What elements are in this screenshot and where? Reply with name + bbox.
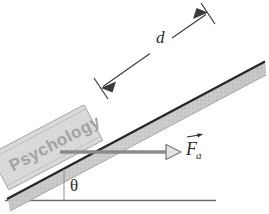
distance-dimension [94, 3, 215, 99]
distance-label: d [156, 28, 165, 48]
applied-force-label: F a [186, 140, 203, 158]
force-subscript-a: a [196, 149, 202, 161]
diagram-canvas: Psychology [0, 0, 269, 214]
vector-arrow-icon [187, 133, 203, 140]
physics-inclined-plane-figure: Psychology d θ [0, 0, 269, 214]
angle-label-theta: θ [70, 176, 78, 196]
